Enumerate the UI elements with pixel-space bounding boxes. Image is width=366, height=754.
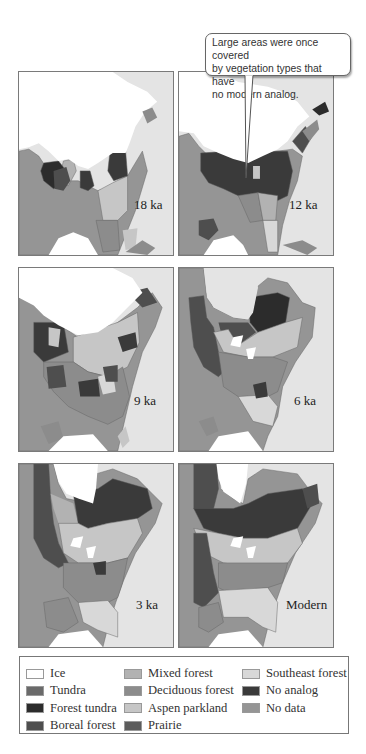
panel-label-9ka: 9 ka — [134, 393, 156, 409]
map-panel-modern: Modern — [178, 463, 334, 648]
legend-item-prairie: Prairie — [124, 717, 234, 734]
callout-line-1: Large areas were once covered — [212, 36, 344, 62]
map-18ka — [19, 72, 173, 255]
legend-item-mixed-forest: Mixed forest — [124, 665, 234, 682]
map-3ka — [19, 464, 173, 647]
legend-column-2: Mixed forest Deciduous forest Aspen park… — [124, 665, 234, 734]
map-panel-18ka: 18 ka — [18, 71, 174, 256]
swatch-deciduous-forest-icon — [124, 686, 142, 696]
swatch-ice-icon — [26, 669, 44, 679]
legend-item-deciduous-forest: Deciduous forest — [124, 682, 234, 699]
map-panel-9ka: 9 ka — [18, 267, 174, 452]
map-6ka — [179, 268, 333, 451]
panel-label-modern: Modern — [286, 597, 327, 613]
legend-item-no-data: No data — [242, 700, 347, 717]
legend-item-boreal-forest: Boreal forest — [26, 717, 117, 734]
panel-label-18ka: 18 ka — [134, 197, 163, 213]
no-analog-callout: Large areas were once covered by vegetat… — [205, 33, 351, 76]
callout-line-3: no modern analog. — [212, 88, 344, 101]
legend-item-forest-tundra: Forest tundra — [26, 700, 117, 717]
panel-label-3ka: 3 ka — [136, 597, 158, 613]
legend-item-ice: Ice — [26, 665, 117, 682]
callout-line-2: by vegetation types that have — [212, 62, 344, 88]
map-panel-6ka: 6 ka — [178, 267, 334, 452]
swatch-mixed-forest-icon — [124, 669, 142, 679]
map-modern — [179, 464, 333, 647]
legend-item-southeast-forest: Southeast forest — [242, 665, 347, 682]
legend-column-1: Ice Tundra Forest tundra Boreal forest — [26, 665, 117, 734]
swatch-tundra-icon — [26, 686, 44, 696]
legend: Ice Tundra Forest tundra Boreal forest M… — [19, 656, 349, 734]
swatch-no-analog-icon — [242, 686, 260, 696]
map-panel-3ka: 3 ka — [18, 463, 174, 648]
swatch-boreal-forest-icon — [26, 721, 44, 731]
legend-item-no-analog: No analog — [242, 682, 347, 699]
legend-item-aspen-parkland: Aspen parkland — [124, 700, 234, 717]
map-9ka — [19, 268, 173, 451]
callout-pointer — [240, 74, 260, 180]
panel-label-12ka: 12 ka — [289, 197, 318, 213]
swatch-aspen-parkland-icon — [124, 703, 142, 713]
legend-item-tundra: Tundra — [26, 682, 117, 699]
swatch-prairie-icon — [124, 721, 142, 731]
swatch-no-data-icon — [242, 703, 260, 713]
panel-label-6ka: 6 ka — [294, 393, 316, 409]
swatch-forest-tundra-icon — [26, 703, 44, 713]
swatch-southeast-forest-icon — [242, 669, 260, 679]
legend-column-3: Southeast forest No analog No data — [242, 665, 347, 717]
